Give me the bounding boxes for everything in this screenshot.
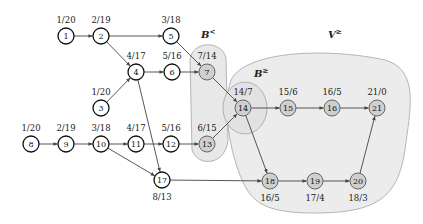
node-id: 11	[131, 140, 141, 149]
node-id: 12	[166, 140, 176, 149]
node-12: 125/16	[161, 123, 180, 152]
region-label-b-less: B<	[200, 27, 215, 40]
node-label: 2/19	[91, 15, 110, 25]
node-id: 10	[96, 140, 106, 149]
node-id: 15	[283, 104, 293, 113]
node-id: 17	[157, 176, 167, 185]
node-label: 5/16	[161, 123, 180, 133]
node-10: 103/18	[91, 123, 110, 152]
graph-diagram: B< V≥ B≥ 11/2022/1953/1844/1765/1677/143…	[0, 0, 423, 224]
node-id: 2	[98, 32, 103, 41]
node-label: 21/0	[367, 87, 386, 97]
node-id: 13	[202, 140, 212, 149]
node-label: 8/13	[152, 192, 171, 202]
node-label: 16/5	[322, 87, 341, 97]
node-label: 2/19	[56, 123, 75, 133]
node-label: 3/18	[91, 123, 110, 133]
node-id: 5	[168, 32, 173, 41]
node-label: 7/14	[197, 51, 216, 61]
node-id: 6	[169, 68, 174, 77]
node-label: 14/7	[233, 87, 252, 97]
node-label: 1/20	[56, 15, 75, 25]
node-id: 20	[353, 177, 363, 186]
region-label-v-geq: V≥	[328, 27, 342, 40]
node-label: 4/17	[126, 123, 145, 133]
node-label: 15/6	[278, 87, 297, 97]
node-id: 21	[372, 104, 382, 113]
node-8: 81/20	[21, 123, 40, 152]
node-9: 92/19	[56, 123, 75, 152]
node-id: 19	[310, 177, 320, 186]
edge-10-17	[108, 148, 155, 176]
node-1: 11/20	[56, 15, 75, 44]
node-label: 17/4	[305, 193, 324, 203]
node-id: 8	[28, 140, 33, 149]
node-11: 114/17	[126, 123, 145, 152]
node-id: 1	[63, 32, 68, 41]
node-label: 5/16	[162, 51, 181, 61]
node-5: 53/18	[161, 15, 180, 44]
node-id: 18	[265, 177, 275, 186]
node-label: 18/3	[348, 193, 367, 203]
node-label: 1/20	[91, 87, 110, 97]
node-id: 3	[98, 104, 103, 113]
node-label: 1/20	[21, 123, 40, 133]
node-6: 65/16	[162, 51, 181, 80]
node-id: 7	[204, 68, 209, 77]
node-label: 16/5	[260, 193, 279, 203]
node-label: 3/18	[161, 15, 180, 25]
node-label: 4/17	[126, 51, 145, 61]
node-17: 178/13	[152, 172, 171, 202]
node-id: 4	[133, 68, 138, 77]
node-id: 16	[327, 104, 337, 113]
node-2: 22/19	[91, 15, 110, 44]
node-id: 9	[63, 140, 68, 149]
node-label: 6/15	[197, 123, 216, 133]
node-id: 14	[238, 104, 248, 113]
